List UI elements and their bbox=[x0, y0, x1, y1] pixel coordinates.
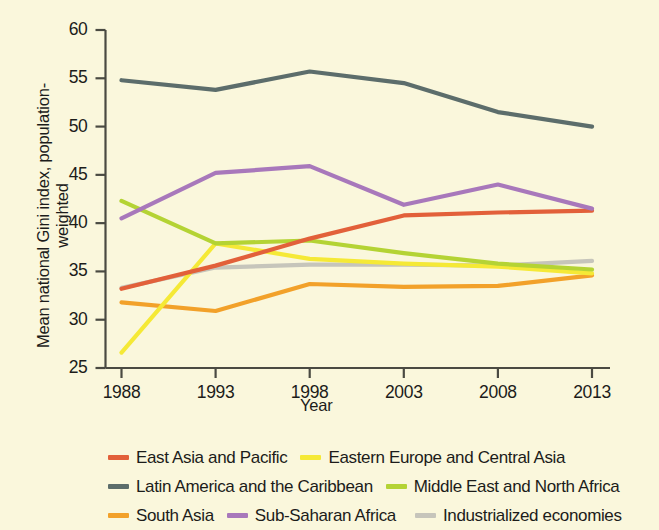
x-tick-label: 2008 bbox=[468, 382, 528, 403]
y-tick-label: 45 bbox=[48, 164, 88, 185]
gini-index-line-chart: Mean national Gini index, population-wei… bbox=[0, 0, 659, 530]
legend-label: Middle East and North Africa bbox=[414, 478, 620, 495]
legend-color-swatch-icon bbox=[108, 455, 129, 460]
y-tick-label: 50 bbox=[48, 116, 88, 137]
y-tick-label: 25 bbox=[48, 357, 88, 378]
chart-canvas bbox=[0, 0, 659, 440]
legend-item[interactable]: Eastern Europe and Central Asia bbox=[300, 449, 565, 466]
y-tick-label: 40 bbox=[48, 212, 88, 233]
x-tick-label: 2013 bbox=[562, 382, 622, 403]
y-tick-label: 35 bbox=[48, 260, 88, 281]
legend-color-swatch-icon bbox=[227, 513, 248, 518]
y-tick-label: 55 bbox=[48, 67, 88, 88]
legend-item[interactable]: Latin America and the Caribbean bbox=[108, 478, 373, 495]
legend-color-swatch-icon bbox=[108, 513, 129, 518]
y-tick-label: 30 bbox=[48, 309, 88, 330]
x-tick-label: 1998 bbox=[280, 382, 340, 403]
legend-color-swatch-icon bbox=[108, 484, 129, 489]
series-line bbox=[122, 275, 593, 311]
legend-label: South Asia bbox=[136, 507, 214, 524]
legend-item[interactable]: East Asia and Pacific bbox=[108, 449, 287, 466]
legend-label: Latin America and the Caribbean bbox=[136, 478, 373, 495]
legend-color-swatch-icon bbox=[300, 455, 321, 460]
legend-label: Eastern Europe and Central Asia bbox=[328, 449, 565, 466]
legend-row: South AsiaSub-Saharan AfricaIndustrializ… bbox=[0, 501, 659, 530]
legend-item[interactable]: Industrialized economies bbox=[415, 507, 622, 524]
series-line bbox=[122, 243, 593, 352]
legend-row: Latin America and the CaribbeanMiddle Ea… bbox=[0, 472, 659, 501]
x-tick-label: 1988 bbox=[92, 382, 152, 403]
plot-area: Mean national Gini index, population-wei… bbox=[0, 0, 659, 440]
legend-item[interactable]: Middle East and North Africa bbox=[386, 478, 620, 495]
legend-label: Sub-Saharan Africa bbox=[255, 507, 396, 524]
series-line bbox=[122, 211, 593, 289]
x-tick-label: 1993 bbox=[186, 382, 246, 403]
chart-legend: East Asia and PacificEastern Europe and … bbox=[0, 441, 659, 530]
legend-color-swatch-icon bbox=[386, 484, 407, 489]
legend-color-swatch-icon bbox=[415, 513, 436, 518]
x-tick-label: 2003 bbox=[374, 382, 434, 403]
y-tick-label: 60 bbox=[48, 19, 88, 40]
legend-item[interactable]: Sub-Saharan Africa bbox=[227, 507, 396, 524]
series-line bbox=[122, 72, 593, 127]
legend-item[interactable]: South Asia bbox=[108, 507, 214, 524]
legend-row: East Asia and PacificEastern Europe and … bbox=[0, 443, 659, 472]
legend-label: East Asia and Pacific bbox=[136, 449, 287, 466]
legend-label: Industrialized economies bbox=[443, 507, 622, 524]
